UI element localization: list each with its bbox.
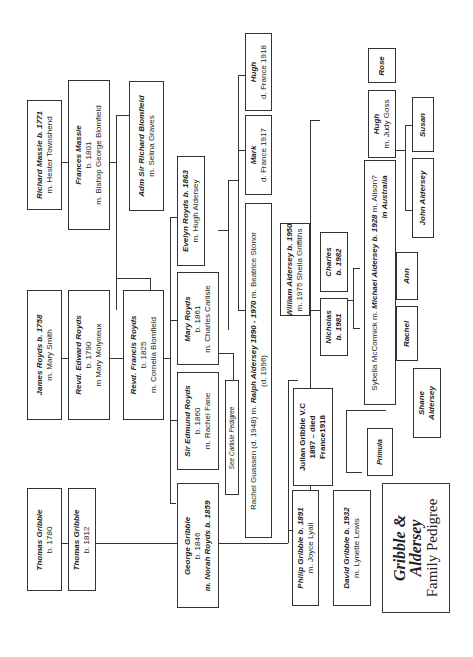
connector [170,217,171,503]
detail: d. France 1918 [259,45,269,99]
title-line-1: Gribble & [392,499,408,598]
person-evelyn-royds: Evelyn Royds b. 1863m. Hugh Aldersey [177,156,205,266]
detail: m. 1975 Sheila Griffiths [295,223,305,316]
connector [218,353,233,354]
born: b. 1825 [139,315,149,394]
name: George Gribble [183,500,193,591]
name: Hugh [372,100,382,149]
person-julian-gribble: Julian Gribble V.C1897 – diedFrance1918 [293,388,333,486]
detail: Aldersey [427,386,437,420]
person-mary-royds: Mary Roydsb. 1861m. Charles Carlisle [177,272,219,365]
connector [109,162,116,163]
connector [116,115,117,310]
connector [346,472,362,473]
name: Revd. Edward Royds [74,315,84,395]
born: 1897 – died [308,403,318,471]
name: Julian Gribble V.C [298,403,308,471]
name: Ann [402,268,412,284]
spouse-1: Rachel Guassen (d. 1948) m. [249,403,258,510]
connector [116,278,151,279]
person-charles: Charlesb. 1982 [320,232,348,292]
born: b. 1860 [193,385,203,457]
person-philip-gribble: Philip Gribble b. 1891m. Joyce Lyall [292,490,319,606]
connector [170,503,176,504]
detail: m. Hugh Aldersey [191,170,201,252]
name: Rachel [402,320,412,346]
person-ann: Ann [396,252,418,300]
person-francis-royds: Revd. Francis Roydsb. 1825m. Cornelia Bl… [123,290,164,420]
title-box: Gribble &AlderseyFamily Pedigree [382,483,450,613]
name: John Aldersey [418,171,428,226]
person-james-royds: James Royds b. 1758m. Mary Smith [27,290,62,420]
name: Revd. Francis Royds [129,315,139,394]
person-nicholas: Nicholasb. 1981 [320,298,348,356]
name: James Royds b. 1758 [35,315,45,396]
person-thomas-gribble-1812: Thomas Gribbleb. 1812 [68,488,96,591]
connector [163,358,170,359]
connector [228,180,238,181]
spouse-1: Sybella McCormick m. [370,308,379,390]
person-michael-aldersey: Sybella McCormick m. Michael Aldersey b.… [364,160,396,405]
person-hugh-goss: Hughm. Judy Goss [368,90,396,158]
name: Shane [417,386,427,420]
spouse-2: m. Beatrice Stonor [249,231,258,299]
name: William Aldersey b. 1950 [285,223,295,316]
detail: m. Judy Goss [382,100,392,149]
person-richard-massie: Richard Massie b. 1771m. Hester Townshen… [27,100,62,210]
detail: m. Mary Smith [45,315,55,396]
name: Primula [375,439,385,465]
detail: m. Charles Carlisle [203,285,213,353]
title-line-3: Family Pedigree [424,499,440,598]
detail: France1918 [318,403,328,471]
note: See Carlisle Pedigree [227,406,237,469]
person-rose: Rose [368,48,396,83]
name: Evelyn Royds b. 1863 [181,170,191,252]
name: Adm Sir Richard Blomfield [137,95,147,196]
connector [116,115,129,116]
connector [218,543,288,544]
connector [170,420,177,421]
connector [405,125,406,210]
connector [170,217,177,218]
connector [288,380,289,543]
person-george-gribble: George Gribbleb. 1846m. Norah Royds b. 1… [177,483,219,608]
born: b. 1981 [334,310,344,343]
born: b. 1780 [45,509,55,570]
connector [353,268,360,269]
detail: m. Cornelia Blomfield [149,315,159,394]
person-frances-massie: Frances Massieb. 1801m. Bishop George Bl… [68,80,110,230]
born: b. 1846 [193,500,203,591]
connector [95,543,177,544]
connector [346,410,347,472]
connector [405,125,412,126]
person-edward-royds: Revd. Edward Roydsb. 1790m Mary Molyneux [68,290,110,420]
detail: m. Joyce Lyall [306,507,316,588]
name: Ralph Aldersey 1890 - 1970 [249,300,258,403]
name: Nicholas [324,310,334,343]
connector [61,162,68,163]
born: b. 1790 [84,315,94,395]
person-edmund-royds: Sir Edmund Roydsb. 1860m. Rachel Fane [177,372,219,470]
name: Philip Gribble b. 1891 [296,507,306,588]
connector [109,358,123,359]
born: b. 1801 [84,105,94,205]
person-hugh-1918: Hughd. France 1918 [245,33,272,111]
connector [228,180,229,330]
title-line-2: Aldersey [408,499,424,598]
name: Richard Massie b. 1771 [35,111,45,199]
person-david-gribble: David Gribble b. 1932m. Lynette Lewis [333,490,371,606]
name: David Gribble b. 1932 [342,507,352,588]
person-shane-aldersey: ShaneAldersey [413,368,441,438]
connector [395,150,405,151]
connector [61,358,68,359]
connector [346,410,386,411]
detail: m. Lynette Lewis [352,507,362,588]
connector [61,543,68,544]
born: b. 1812 [82,509,92,570]
name: Susan [418,112,428,136]
detail: d. France 1917 [259,128,269,182]
person-ralph-aldersey: Rachel Guassen (d. 1948) m. Ralph Alders… [245,203,272,538]
name: Sir Edmund Royds [183,385,193,457]
born: b. 1861 [193,285,203,353]
person-john-aldersey: John Aldersey [412,158,434,238]
